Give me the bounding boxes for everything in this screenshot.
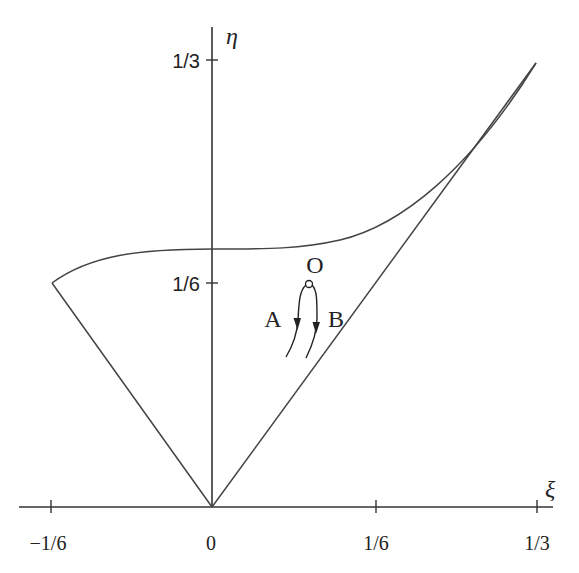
x-tick-label-0: 0 <box>206 532 216 554</box>
arrow-a-icon <box>294 318 302 330</box>
curve-b-label: B <box>328 306 344 332</box>
curve-a-label: A <box>264 306 282 332</box>
x-tick-label-16: 1/6 <box>363 532 389 554</box>
arrow-b-icon <box>313 322 321 334</box>
point-o-marker <box>306 281 313 288</box>
y-tick-label-13: 1/3 <box>172 50 200 72</box>
phase-diagram: η ξ 1/3 1/6 −1/6 0 1/6 1/3 O A B <box>0 0 579 573</box>
x-axis-label: ξ <box>545 476 556 502</box>
x-tick-label-m16: −1/6 <box>30 532 67 554</box>
point-o-label: O <box>306 252 323 278</box>
upper-boundary-curve <box>52 63 536 283</box>
left-boundary-line <box>52 283 212 507</box>
x-tick-label-13: 1/3 <box>524 532 550 554</box>
trajectory-b <box>306 285 317 358</box>
y-axis-label: η <box>226 23 238 49</box>
y-tick-label-16: 1/6 <box>172 273 200 295</box>
right-boundary-line <box>212 63 536 507</box>
